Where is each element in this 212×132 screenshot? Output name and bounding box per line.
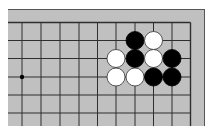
go-board <box>0 0 212 132</box>
white-stone <box>145 50 163 68</box>
white-stone <box>145 32 163 50</box>
black-stone <box>163 68 181 86</box>
white-stone <box>126 68 144 86</box>
white-stone <box>107 50 125 68</box>
black-stone <box>126 32 144 50</box>
white-stone <box>107 68 125 86</box>
black-stone <box>145 68 163 86</box>
black-stone <box>126 50 144 68</box>
black-stone <box>163 50 181 68</box>
star-points <box>20 75 24 79</box>
star-point <box>20 75 24 79</box>
board-background <box>8 9 205 126</box>
